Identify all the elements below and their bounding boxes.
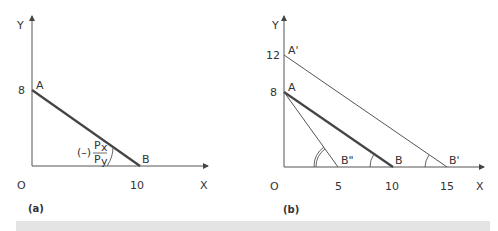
point-a-prime-label: A' — [288, 44, 299, 57]
x-tick-10: 10 — [385, 180, 399, 193]
angle-arc — [107, 147, 113, 166]
y-axis-label: Y — [271, 19, 279, 32]
point-b-prime-label: B' — [449, 154, 460, 167]
point-b-label: B — [395, 154, 403, 167]
svg-text:P: P — [94, 153, 101, 166]
point-b-double-prime-label: B" — [341, 154, 354, 167]
origin-label: O — [270, 180, 279, 193]
panel-a: Y O X 8 10 A B (–) P x P y (a) — [16, 16, 208, 214]
origin-label: O — [17, 179, 26, 192]
svg-text:(–): (–) — [77, 146, 91, 159]
angle-arc-b — [370, 154, 374, 167]
slope-label: (–) P x P y — [77, 139, 108, 168]
angle-arc-b-prime — [425, 155, 429, 167]
svg-text:P: P — [94, 139, 101, 152]
diagram-canvas: Y O X 8 10 A B (–) P x P y (a) Y O X 12 … — [0, 0, 498, 231]
x-axis-label: X — [200, 179, 208, 192]
angle-arc-double-1 — [316, 149, 325, 167]
y-tick-8: 8 — [270, 86, 277, 99]
budget-line-ab — [284, 92, 393, 167]
x-axis-label: X — [476, 180, 484, 193]
x-tick-5: 5 — [335, 180, 342, 193]
x-tick-10: 10 — [130, 179, 144, 192]
point-a-label: A — [288, 81, 296, 94]
x-tick-15: 15 — [440, 180, 454, 193]
y-axis-label: Y — [16, 19, 24, 32]
budget-line-ab-double-prime — [284, 92, 338, 167]
svg-text:x: x — [101, 141, 108, 154]
y-tick-8: 8 — [18, 84, 25, 97]
point-b-label: B — [142, 153, 150, 166]
caption-b: (b) — [283, 204, 299, 215]
y-tick-12: 12 — [266, 49, 280, 62]
caption-a: (a) — [28, 203, 44, 214]
bottom-divider — [16, 221, 490, 231]
budget-line-a-prime-b-prime — [284, 55, 447, 167]
panel-b: Y O X 12 8 5 10 15 A' A B" B B' (b) — [266, 16, 484, 215]
svg-text:y: y — [101, 155, 108, 168]
point-a-label: A — [36, 79, 44, 92]
angle-arc-double-2 — [314, 147, 324, 167]
